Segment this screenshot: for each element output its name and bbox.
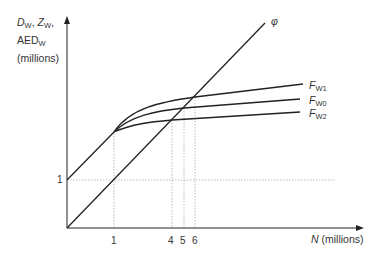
y-label-d: D bbox=[17, 16, 25, 28]
x-tick-1: 1 bbox=[111, 235, 117, 246]
phi-label: φ bbox=[271, 15, 278, 27]
x-tick-6: 6 bbox=[192, 235, 198, 246]
y-label-aed-sub: W bbox=[39, 39, 46, 48]
y-label-aed: AED bbox=[17, 34, 39, 46]
x-axis-arrow-icon bbox=[356, 225, 364, 231]
x-axis-label: N (millions) bbox=[311, 233, 364, 245]
fw2-curve bbox=[114, 112, 300, 132]
y-label-d-sub: W bbox=[25, 21, 32, 30]
fw2-label: FW2 bbox=[309, 107, 327, 123]
fw1-label: FW1 bbox=[309, 79, 327, 95]
x-tick-4: 4 bbox=[168, 235, 174, 246]
phi-line bbox=[67, 23, 265, 228]
x-label-unit: (millions) bbox=[319, 233, 364, 245]
fw2-label-sub: W2 bbox=[315, 112, 326, 121]
y-label-unit: (millions) bbox=[17, 52, 59, 64]
fw0-curve bbox=[114, 99, 300, 132]
fw1-curve bbox=[114, 84, 303, 132]
fw1-label-sub: W1 bbox=[315, 84, 326, 93]
y-label-comma: , bbox=[51, 16, 54, 28]
y-label-z-sub: W bbox=[44, 21, 51, 30]
y-tick-1: 1 bbox=[57, 174, 63, 185]
initial-segment bbox=[67, 132, 114, 180]
x-label-n: N bbox=[311, 233, 319, 245]
x-tick-5: 5 bbox=[180, 235, 186, 246]
y-axis-label: DW, ZW, AEDW (millions) bbox=[17, 16, 59, 64]
y-axis-arrow-icon bbox=[64, 16, 70, 24]
